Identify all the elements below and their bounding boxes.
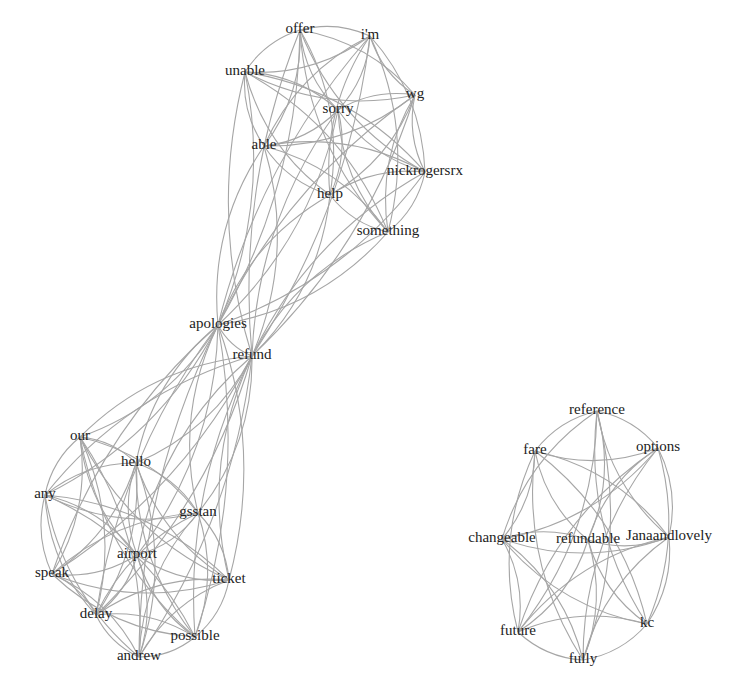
node-unable: unable: [225, 63, 265, 78]
edge-apologies-delay: [96, 325, 218, 615]
edge-future-kc: [518, 616, 647, 632]
edge-options-janaandlovely: [658, 448, 672, 537]
node-janaandlovely: Janaandlovely: [626, 528, 712, 543]
node-andrew: andrew: [117, 648, 161, 663]
node-apologies: apologies: [189, 316, 247, 331]
node-changeable: changeable: [468, 530, 535, 545]
node-speak: speak: [35, 565, 69, 580]
node-help: help: [317, 186, 343, 201]
edge-fare-refundable: [535, 451, 588, 540]
node-delay: delay: [80, 606, 112, 621]
edge-fare-fully: [533, 451, 583, 660]
node-im: i'm: [361, 27, 380, 42]
edge-apologies-help: [218, 195, 330, 325]
edge-unable-help: [245, 72, 330, 195]
edge-refund-something: [252, 232, 388, 356]
node-airport: airport: [117, 546, 157, 561]
node-sorry: sorry: [323, 101, 354, 116]
edge-janaandlovely-kc: [647, 537, 670, 624]
node-kc: kc: [640, 615, 654, 630]
node-reference: reference: [569, 402, 625, 417]
node-offer: offer: [286, 21, 315, 36]
edge-apologies-able: [217, 146, 264, 325]
edge-changeable-fully: [502, 539, 583, 660]
node-refund: refund: [232, 347, 271, 362]
edge-speak-ticket: [52, 574, 229, 593]
node-nickrogersrx: nickrogersrx: [387, 163, 463, 178]
node-refundable: refundable: [556, 531, 620, 546]
edge-options-changeable: [502, 448, 658, 539]
node-something: something: [357, 223, 420, 238]
edge-apologies-hello: [136, 325, 218, 463]
edge-gsstan-speak: [52, 513, 198, 574]
edge-offer-wg: [300, 30, 415, 95]
node-any: any: [34, 486, 56, 501]
node-gsstan: gsstan: [179, 504, 217, 519]
node-fare: fare: [523, 442, 546, 457]
edge-refund-any: [45, 356, 252, 495]
network-graph: [0, 0, 744, 697]
node-future: future: [500, 623, 536, 638]
node-hello: hello: [121, 454, 151, 469]
edge-changeable-future: [502, 539, 520, 632]
node-able: able: [252, 137, 277, 152]
edge-changeable-kc: [502, 539, 647, 624]
node-wg: wg: [406, 86, 424, 101]
edge-any-delay: [45, 495, 96, 615]
node-fully: fully: [569, 651, 597, 666]
edge-apologies-speak: [52, 325, 218, 574]
node-our: our: [70, 428, 90, 443]
node-ticket: ticket: [212, 571, 245, 586]
node-possible: possible: [170, 628, 219, 643]
edge-airport-andrew: [137, 555, 147, 657]
node-options: options: [636, 439, 680, 454]
edge-offer-something: [300, 30, 388, 232]
